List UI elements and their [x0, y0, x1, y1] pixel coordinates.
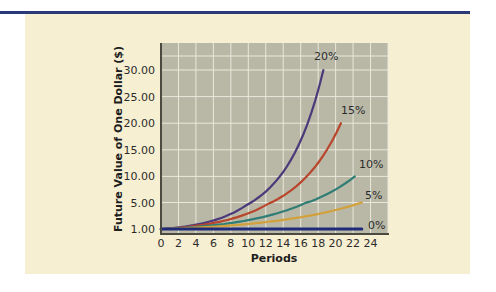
x-tick-label: 6	[210, 237, 217, 250]
y-tick-label: 1.00	[131, 223, 156, 236]
x-tick-label: 18	[311, 237, 325, 250]
y-axis-label: Future Value of One Dollar ($)	[112, 46, 125, 232]
x-tick-label: 14	[276, 237, 290, 250]
x-tick-label: 2	[175, 237, 182, 250]
x-axis-line	[160, 233, 389, 235]
x-tick-label: 22	[346, 237, 360, 250]
y-tick-label: 25.00	[124, 90, 156, 103]
series-label-5: 5%	[365, 189, 382, 202]
x-axis-label: Periods	[251, 252, 298, 265]
series-label-0: 0%	[368, 219, 385, 232]
y-tick-label: 30.00	[124, 64, 156, 77]
series-label-15: 15%	[341, 104, 365, 117]
x-tick-label: 20	[329, 237, 343, 250]
x-tick-label: 4	[192, 237, 199, 250]
series-label-20: 20%	[314, 50, 338, 63]
x-tick-label: 12	[259, 237, 273, 250]
y-tick-label: 15.00	[124, 143, 156, 156]
x-tick-label: 24	[364, 237, 378, 250]
y-tick-label: 5.00	[131, 196, 156, 209]
y-tick-label: 20.00	[124, 117, 156, 130]
x-tick-label: 16	[294, 237, 308, 250]
x-tick-label: 0	[158, 237, 165, 250]
series-label-10: 10%	[359, 158, 383, 171]
y-axis-line	[160, 43, 162, 235]
y-tick-label: 10.00	[124, 170, 156, 183]
x-tick-label: 8	[227, 237, 234, 250]
x-tick-label: 10	[241, 237, 255, 250]
